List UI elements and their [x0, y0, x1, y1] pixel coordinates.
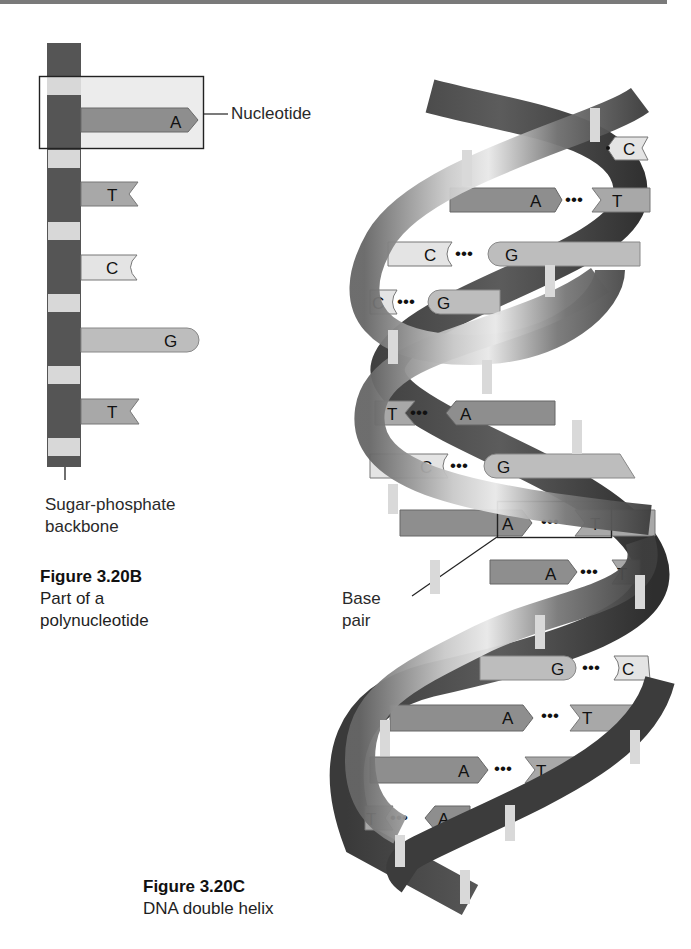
- svg-text:•••: •••: [455, 244, 473, 263]
- svg-text:G: G: [164, 332, 177, 351]
- svg-text:G: G: [497, 458, 510, 477]
- svg-text:C: C: [106, 259, 118, 278]
- svg-text:G: G: [505, 246, 518, 265]
- svg-text:•••: •••: [582, 658, 600, 677]
- base-pair-row: C ••• G: [370, 290, 500, 314]
- base-pair-row: A ••• T: [450, 188, 650, 212]
- backbone-callout-label-line1: Sugar-phosphate: [45, 494, 175, 516]
- svg-text:T: T: [387, 405, 397, 424]
- dna-double-helix-diagram: C A ••• T C ••• G C ••• G T: [300, 70, 691, 920]
- svg-text:T: T: [107, 186, 117, 205]
- base-pair-callout-label-line1: Base: [342, 588, 381, 610]
- base-pair-row: G ••• C: [480, 656, 650, 680]
- figure-b-caption-line2: polynucleotide: [40, 610, 149, 632]
- svg-text:T: T: [107, 403, 117, 422]
- svg-text:A: A: [545, 565, 557, 584]
- base-G-round: G: [81, 328, 199, 352]
- figure-c-caption: DNA double helix: [143, 898, 273, 920]
- svg-text:C: C: [622, 660, 634, 679]
- base-pair-row: A ••• T: [390, 705, 640, 731]
- svg-text:A: A: [530, 192, 542, 211]
- svg-text:•••: •••: [397, 292, 415, 311]
- base-C-cup: C: [81, 255, 137, 280]
- base-pair-row: C ••• G: [388, 242, 640, 266]
- svg-text:A: A: [460, 405, 472, 424]
- svg-text:A: A: [502, 515, 514, 534]
- figure-b-title: Figure 3.20B: [40, 566, 142, 588]
- svg-text:A: A: [502, 709, 514, 728]
- svg-text:•••: •••: [580, 562, 598, 581]
- base-T-notch: T: [81, 182, 138, 206]
- base-pair-callout-label-line2: pair: [342, 610, 370, 632]
- base-pair-row: T ••• A: [375, 401, 555, 425]
- svg-text:C: C: [424, 246, 436, 265]
- svg-text:A: A: [458, 762, 470, 781]
- svg-text:C: C: [623, 140, 635, 159]
- svg-text:•••: •••: [565, 190, 583, 209]
- svg-text:T: T: [612, 192, 622, 211]
- svg-text:•••: •••: [494, 759, 512, 778]
- backbone-callout-label-line2: backbone: [45, 516, 119, 538]
- figure-c-title: Figure 3.20C: [143, 876, 245, 898]
- svg-text:G: G: [437, 294, 450, 313]
- figure-b-caption-line1: Part of a: [40, 588, 104, 610]
- base-A-arrow: A: [81, 108, 198, 132]
- base-T-notch: T: [81, 399, 139, 424]
- polynucleotide-diagram: A T C G T: [0, 0, 330, 480]
- svg-text:A: A: [170, 113, 182, 132]
- svg-text:T: T: [582, 709, 592, 728]
- svg-text:•••: •••: [450, 456, 468, 475]
- svg-text:•••: •••: [541, 706, 559, 725]
- base-pair-row: C: [606, 137, 648, 160]
- svg-text:G: G: [551, 660, 564, 679]
- svg-text:•••: •••: [410, 403, 428, 422]
